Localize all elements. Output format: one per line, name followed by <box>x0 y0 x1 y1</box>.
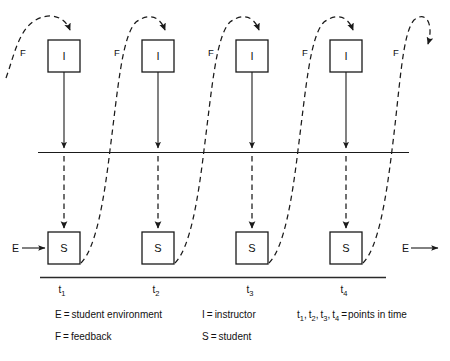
student-box-label: S <box>60 242 67 254</box>
instructor-box-label: I <box>62 50 65 62</box>
instructor-column-4: I <box>330 40 362 228</box>
legend-entry-instructor: I=instructor <box>202 309 256 320</box>
legend-entry-environment: E=student environment <box>55 309 162 320</box>
time-label: t3 <box>247 284 254 298</box>
feedback-label: F <box>20 47 26 58</box>
feedback-label: F <box>114 47 120 58</box>
time-label: t4 <box>341 284 348 298</box>
environment-label: E <box>12 242 19 254</box>
legend-entry-feedback: F=feedback <box>55 331 113 342</box>
time-label: t1 <box>59 284 66 298</box>
student-box-label: S <box>248 242 255 254</box>
instructor-box-label: I <box>250 50 253 62</box>
feedback-cycle-diagram: I I I I S S <box>0 0 450 361</box>
time-label: t2 <box>153 284 160 298</box>
legend-entry-student: S=student <box>202 331 252 342</box>
environment-output-right: E <box>402 242 438 254</box>
environment-label: E <box>402 242 409 254</box>
instructor-column-2: I <box>142 40 174 228</box>
student-column-4: S <box>330 232 362 264</box>
feedback-label: F <box>302 47 308 58</box>
student-column-3: S <box>236 232 268 264</box>
diagram-root: I I I I S S <box>0 0 450 361</box>
instructor-box-label: I <box>344 50 347 62</box>
legend: E=student environment F=feedback I=instr… <box>55 309 407 342</box>
instructor-column-1: I <box>48 40 80 228</box>
feedback-label: F <box>393 47 399 58</box>
student-column-2: S <box>142 232 174 264</box>
student-column-1: S <box>48 232 80 264</box>
student-box-label: S <box>154 242 161 254</box>
student-box-label: S <box>342 242 349 254</box>
time-axis: t1 t2 t3 t4 <box>40 278 386 299</box>
instructor-box-label: I <box>156 50 159 62</box>
feedback-label: F <box>208 47 214 58</box>
instructor-column-3: I <box>236 40 268 228</box>
environment-input-left: E <box>12 242 45 254</box>
legend-entry-points-in-time: t1,t2,t3,t4=points in time <box>297 309 407 323</box>
